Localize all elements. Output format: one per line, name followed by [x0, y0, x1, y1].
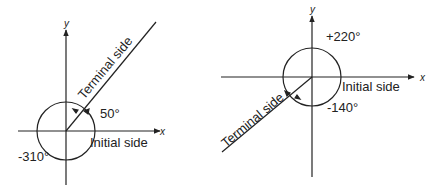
y-axis-label: y	[309, 4, 316, 15]
arrowhead-positive-icon	[84, 109, 89, 114]
positive-angle-label: +220°	[326, 29, 360, 44]
positive-angle-label: 50°	[100, 106, 120, 121]
angle-diagrams: y x Terminal side Initial side 50° -310°…	[0, 0, 442, 187]
right-diagram	[221, 16, 414, 177]
negative-angle-label: -140°	[327, 100, 358, 115]
initial-side-label: Initial side	[90, 135, 148, 150]
initial-side-label: Initial side	[342, 79, 400, 94]
terminal-side-label: Terminal side	[75, 34, 136, 102]
x-axis-label: x	[159, 126, 166, 137]
terminal-side-label: Terminal side	[218, 90, 286, 151]
negative-angle-label: -310°	[18, 149, 49, 164]
y-axis-label: y	[63, 18, 70, 29]
arrowhead-negative-icon	[295, 95, 300, 99]
x-axis-label: x	[419, 72, 426, 83]
arrowhead-negative-icon	[73, 109, 78, 113]
